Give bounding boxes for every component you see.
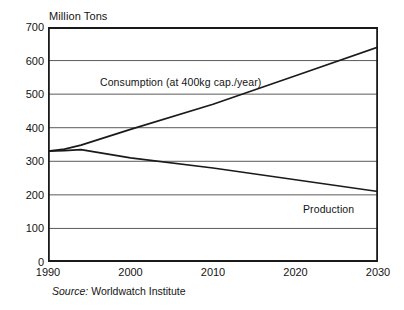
- x-tick-label: 2000: [118, 267, 142, 278]
- source-prefix: Source:: [52, 285, 88, 297]
- y-axis-title: Million Tons: [49, 10, 107, 22]
- series-line-consumption: [48, 47, 378, 151]
- y-tick-label: 300: [10, 156, 44, 167]
- y-tick-label: 100: [10, 223, 44, 234]
- x-axis-tick-labels: 1990 2000 2010 2020 2030: [48, 267, 378, 283]
- x-tick-label: 2020: [283, 267, 307, 278]
- y-tick-label: 400: [10, 123, 44, 134]
- chart-figure: Million Tons 700 600 500 400 300 200 100…: [0, 0, 404, 310]
- series-line-production: [48, 150, 378, 192]
- x-tick-label: 2010: [201, 267, 225, 278]
- plot-area: [48, 27, 378, 262]
- y-tick-label: 600: [10, 56, 44, 67]
- x-tick-label: 1990: [36, 267, 60, 278]
- chart-canvas: [48, 27, 378, 262]
- series-label-consumption: Consumption (at 400kg cap./year): [100, 76, 261, 88]
- y-tick-label: 500: [10, 89, 44, 100]
- source-name: Worldwatch Institute: [88, 285, 185, 297]
- y-tick-label: 700: [10, 22, 44, 33]
- y-axis-tick-labels: 700 600 500 400 300 200 100 0: [4, 27, 44, 262]
- plot-frame: [49, 28, 377, 261]
- series-label-production: Production: [303, 203, 354, 215]
- x-tick-label: 2030: [366, 267, 390, 278]
- source-note: Source:Worldwatch Institute: [52, 285, 186, 297]
- y-tick-label: 200: [10, 190, 44, 201]
